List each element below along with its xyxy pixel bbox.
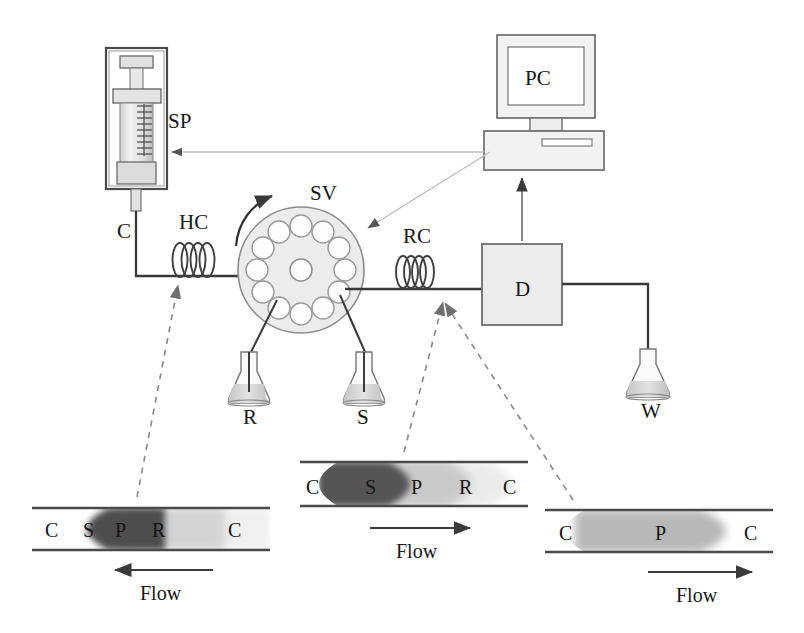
zone-label: C — [228, 519, 241, 541]
flow-label: Flow — [396, 540, 438, 562]
waste-tubing — [562, 284, 648, 349]
plunger-rod — [130, 68, 143, 90]
pc-drive-slot — [542, 139, 592, 146]
holding-coil — [173, 243, 215, 277]
label-SV: SV — [310, 181, 337, 205]
pc-tower-case — [484, 131, 604, 170]
plunger-cap — [120, 56, 153, 68]
syringe-piston — [117, 162, 156, 184]
personal-computer[interactable] — [484, 35, 604, 170]
zone-label: S — [83, 519, 94, 541]
label-PC: PC — [525, 66, 551, 90]
zone-label: P — [115, 519, 126, 541]
plunger-crossbar — [113, 89, 161, 103]
sample-flask — [343, 352, 385, 406]
reaction-coil-outlet-callout-line — [404, 302, 443, 452]
sia-manifold-diagram: SP C HC SV — [0, 0, 804, 633]
label-D: D — [515, 277, 530, 301]
syringe-outlet-stem — [131, 189, 141, 211]
label-HC: HC — [179, 210, 208, 234]
zone-label: R — [459, 476, 473, 498]
pc-to-selection-valve-control-line — [368, 152, 490, 228]
zone-label: C — [45, 519, 58, 541]
zone-label: P — [411, 476, 422, 498]
zone-label: C — [306, 476, 319, 498]
figure-canvas: SP C HC SV — [0, 0, 804, 633]
selection-valve[interactable] — [236, 196, 364, 333]
flow-diagram-middle: C S P R C Flow — [300, 462, 528, 562]
flow-diagram-right: C P C Flow — [545, 510, 773, 606]
flow-diagram-left: C S P R C Flow — [32, 508, 270, 604]
zone-label: C — [503, 476, 516, 498]
selection-valve-common-port — [290, 259, 312, 281]
zone-label: C — [559, 522, 572, 544]
holding-coil-callout-line — [137, 285, 178, 497]
label-S: S — [357, 405, 369, 429]
zone-label: P — [655, 522, 666, 544]
drive-screw — [137, 104, 152, 156]
zone-label: C — [744, 522, 757, 544]
zone-label: S — [365, 476, 376, 498]
label-W: W — [641, 399, 661, 423]
label-R: R — [243, 405, 257, 429]
label-C-carrier: C — [117, 219, 131, 243]
reagent-flask — [228, 352, 270, 406]
label-RC: RC — [403, 224, 431, 248]
reaction-coil — [396, 256, 434, 288]
flow-label: Flow — [676, 584, 718, 606]
pc-monitor-stand — [530, 118, 562, 131]
zone-label: R — [152, 519, 166, 541]
label-SP: SP — [168, 109, 191, 133]
syringe-pump[interactable] — [106, 48, 167, 211]
flow-label: Flow — [140, 582, 182, 604]
waste-flask — [626, 349, 670, 400]
